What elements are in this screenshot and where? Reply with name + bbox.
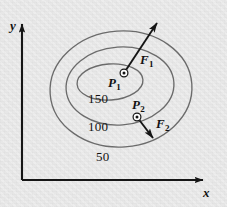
point-label-P2-letter: P: [132, 97, 140, 112]
point-label-P2: P2: [132, 98, 145, 114]
point-label-P1-subscript: 1: [116, 82, 121, 92]
contour-plot-svg: [0, 0, 227, 207]
vector-label-F1: F1: [140, 53, 153, 69]
point-marker-P1-dot: [123, 72, 126, 75]
contour-label-150: 150: [88, 92, 108, 105]
y-axis-label: y: [10, 19, 16, 32]
vector-label-F1-subscript: 1: [149, 59, 154, 69]
vector-label-F2-letter: F: [156, 116, 165, 131]
contour-label-50: 50: [96, 150, 109, 163]
vector-label-F2: F2: [156, 117, 169, 133]
figure-canvas: y x 150 100 50 P1 P2 F1 F2: [0, 0, 227, 207]
vector-label-F1-letter: F: [140, 52, 149, 67]
vectors-group: [124, 23, 157, 138]
vector-label-F2-subscript: 2: [165, 123, 170, 133]
point-marker-P2-dot: [136, 116, 139, 119]
point-label-P1: P1: [108, 76, 121, 92]
contour-label-100: 100: [88, 120, 108, 133]
point-label-P2-subscript: 2: [140, 104, 145, 114]
contour-curves-group: [46, 26, 196, 152]
point-label-P1-letter: P: [108, 75, 116, 90]
x-axis-label: x: [203, 186, 210, 199]
